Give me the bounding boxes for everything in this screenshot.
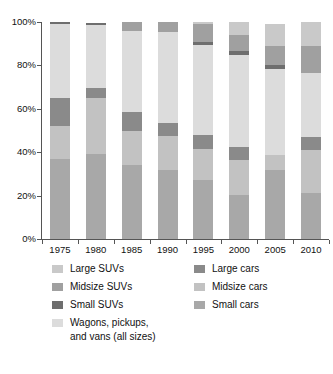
bar-segment bbox=[265, 69, 285, 156]
legend-item: Small cars bbox=[194, 298, 259, 312]
bar-column bbox=[265, 22, 285, 239]
bar-segment bbox=[193, 42, 213, 45]
chart-figure: 0%20%40%60%80%100% 197519801985199019952… bbox=[0, 0, 333, 374]
bar-segment bbox=[229, 195, 249, 239]
legend-label: Midsize SUVs bbox=[70, 280, 132, 294]
bar-stack bbox=[50, 22, 70, 239]
bar-stack bbox=[229, 22, 249, 239]
legend-swatch-icon bbox=[194, 301, 205, 309]
bar-segment bbox=[122, 112, 142, 130]
x-tick-label: 2005 bbox=[257, 244, 293, 256]
bar-segment bbox=[229, 51, 249, 54]
y-tick-mark bbox=[37, 22, 41, 23]
bar-segment bbox=[229, 160, 249, 195]
y-tick-mark bbox=[37, 65, 41, 66]
bar-segment bbox=[193, 22, 213, 24]
bar-segment bbox=[229, 147, 249, 160]
y-tick-mark bbox=[37, 109, 41, 110]
bar-segment bbox=[301, 137, 321, 150]
y-tick-label: 0% bbox=[22, 234, 36, 244]
bar-segment bbox=[301, 73, 321, 137]
y-tick-mark bbox=[37, 152, 41, 153]
bar-segment bbox=[301, 150, 321, 193]
legend-item: Midsize cars bbox=[194, 280, 268, 294]
bar-column bbox=[301, 22, 321, 239]
x-tick-label: 2000 bbox=[221, 244, 257, 256]
legend-swatch-icon bbox=[52, 319, 63, 327]
bar-segment bbox=[86, 154, 106, 239]
legend-label: Small SUVs bbox=[70, 298, 123, 312]
bar-segment bbox=[301, 46, 321, 73]
bar-segment bbox=[193, 135, 213, 149]
bar-column bbox=[86, 22, 106, 239]
bar-stack bbox=[301, 22, 321, 239]
legend-label: Large SUVs bbox=[70, 262, 124, 276]
bar-column bbox=[158, 22, 178, 239]
y-tick-label: 100% bbox=[12, 17, 36, 27]
bar-segment bbox=[265, 24, 285, 46]
bar-segment bbox=[86, 25, 106, 88]
x-tick-label: 1975 bbox=[42, 244, 78, 256]
x-tick-label: 1990 bbox=[150, 244, 186, 256]
bar-segment bbox=[158, 32, 178, 123]
bar-segment bbox=[158, 22, 178, 32]
x-tick-label: 1980 bbox=[78, 244, 114, 256]
bar-segment bbox=[158, 170, 178, 239]
bar-segment bbox=[265, 65, 285, 68]
y-tick-label: 40% bbox=[17, 147, 36, 157]
bar-column bbox=[122, 22, 142, 239]
legend-label: Large cars bbox=[212, 262, 259, 276]
legend-label: Midsize cars bbox=[212, 280, 268, 294]
legend-item: Wagons, pickups, and vans (all sizes) bbox=[52, 316, 156, 343]
bar-segment bbox=[122, 165, 142, 239]
x-tick-label: 1995 bbox=[186, 244, 222, 256]
legend-swatch-icon bbox=[52, 265, 63, 273]
bar-segment bbox=[50, 159, 70, 239]
legend-item: Large SUVs bbox=[52, 262, 124, 276]
bar-segment bbox=[229, 22, 249, 35]
bar-segment bbox=[122, 31, 142, 112]
x-axis-labels: 19751980198519901995200020052010 bbox=[42, 244, 329, 260]
bar-segment bbox=[158, 136, 178, 170]
stacked-bars bbox=[42, 22, 329, 239]
legend-swatch-icon bbox=[194, 283, 205, 291]
bar-segment bbox=[86, 23, 106, 25]
legend-item: Midsize SUVs bbox=[52, 280, 132, 294]
bar-segment bbox=[86, 98, 106, 154]
y-tick-mark bbox=[37, 239, 41, 240]
bar-segment bbox=[229, 35, 249, 51]
legend-swatch-icon bbox=[52, 301, 63, 309]
bar-segment bbox=[193, 24, 213, 41]
bar-column bbox=[193, 22, 213, 239]
bar-segment bbox=[193, 45, 213, 135]
bar-segment bbox=[50, 126, 70, 159]
bar-segment bbox=[86, 88, 106, 98]
bar-stack bbox=[193, 22, 213, 239]
bar-segment bbox=[50, 98, 70, 126]
bar-segment bbox=[265, 155, 285, 169]
bar-segment bbox=[158, 123, 178, 136]
y-tick-mark bbox=[37, 196, 41, 197]
legend-swatch-icon bbox=[194, 265, 205, 273]
y-tick-label: 80% bbox=[17, 60, 36, 70]
bar-segment bbox=[122, 131, 142, 166]
legend-item: Large cars bbox=[194, 262, 259, 276]
chart-legend: Large SUVsMidsize SUVsSmall SUVsWagons, … bbox=[52, 262, 292, 350]
legend-label: Wagons, pickups, and vans (all sizes) bbox=[70, 316, 156, 343]
plot-area: 0%20%40%60%80%100% 197519801985199019952… bbox=[0, 8, 333, 256]
legend-label: Small cars bbox=[212, 298, 259, 312]
bar-segment bbox=[301, 22, 321, 46]
bar-column bbox=[50, 22, 70, 239]
bar-segment bbox=[193, 180, 213, 239]
bar-segment bbox=[122, 22, 142, 31]
bar-segment bbox=[265, 170, 285, 239]
y-tick-label: 20% bbox=[17, 191, 36, 201]
x-tick-label: 2010 bbox=[293, 244, 329, 256]
bar-segment bbox=[229, 55, 249, 147]
bar-segment bbox=[193, 149, 213, 180]
x-tick-label: 1985 bbox=[114, 244, 150, 256]
bar-segment bbox=[50, 22, 70, 24]
bar-segment bbox=[301, 193, 321, 239]
bar-stack bbox=[86, 22, 106, 239]
y-tick-label: 60% bbox=[17, 104, 36, 114]
